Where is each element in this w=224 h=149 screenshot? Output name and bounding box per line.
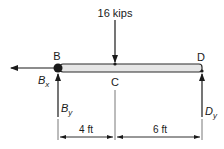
point-c-icon xyxy=(113,62,116,65)
free-body-diagram: 16 kips Bx By Dy B C D 4 ft 6 ft xyxy=(0,0,224,149)
label-d: D xyxy=(197,51,205,63)
label-b: B xyxy=(53,50,60,62)
dimension-label-cd: 6 ft xyxy=(153,124,167,135)
dimension-label-bc: 4 ft xyxy=(79,124,93,135)
label-c: C xyxy=(111,76,119,88)
point-d-icon xyxy=(200,69,203,72)
beam xyxy=(60,64,202,72)
bx-label: Bx xyxy=(38,74,50,89)
load-label: 16 kips xyxy=(98,7,133,19)
dy-label: Dy xyxy=(205,105,218,120)
by-label: By xyxy=(61,102,73,117)
